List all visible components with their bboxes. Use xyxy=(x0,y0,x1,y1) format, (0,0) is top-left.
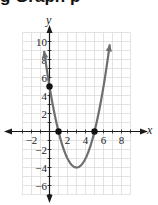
y-tick-label: −6 xyxy=(35,180,47,192)
y-tick-label: 2 xyxy=(42,108,48,120)
curve-arrowheads xyxy=(42,44,112,58)
y-axis-down-arrow-icon xyxy=(47,195,53,203)
marked-point xyxy=(46,83,52,89)
x-axis-left-arrow-icon xyxy=(4,129,12,135)
y-tick-label: 4 xyxy=(42,90,48,102)
y-tick-label: −2 xyxy=(35,144,47,156)
x-tick-label: 6 xyxy=(101,134,107,146)
y-tick-label: 10 xyxy=(36,36,48,48)
marked-point xyxy=(91,128,97,134)
x-tick-label: 4 xyxy=(83,134,89,146)
marked-point xyxy=(55,128,61,134)
x-axis-label: x xyxy=(146,123,153,137)
y-axis-label: y xyxy=(45,13,52,27)
y-tick-label: −4 xyxy=(35,162,47,174)
x-tick-label: 2 xyxy=(65,134,71,146)
parabola-curve xyxy=(44,44,110,167)
parabola-graph: −22468108642−2−4−6 x y xyxy=(0,0,158,205)
x-tick-label: 8 xyxy=(119,134,125,146)
